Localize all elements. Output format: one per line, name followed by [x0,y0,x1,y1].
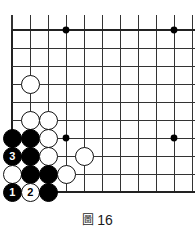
go-stone-white [39,111,58,130]
go-stone-black [3,129,22,148]
go-board[interactable]: 312 [0,0,195,205]
go-stone-black-move-3: 3 [3,147,22,166]
go-stone-black [39,183,58,202]
go-stone-move-number: 1 [9,187,15,198]
figure-caption-mark: 圖 [82,214,94,226]
go-stone-white [75,147,94,166]
figure-caption-number: 16 [97,213,113,227]
go-stone-black [39,165,58,184]
go-stone-white [39,129,58,148]
go-figure: 312 圖 16 [0,0,195,233]
go-stone-black [21,165,40,184]
go-stone-black-move-1: 1 [3,183,22,202]
figure-caption: 圖 16 [0,207,195,233]
go-stone-black [21,147,40,166]
go-stone-white-move-2: 2 [21,183,40,202]
go-stone-white [39,147,58,166]
go-stone-white [21,75,40,94]
go-stone-white [21,111,40,130]
go-stone-white [57,165,76,184]
go-stone-white [3,165,22,184]
go-stone-move-number: 2 [27,187,33,198]
go-stone-move-number: 3 [9,151,15,162]
go-stone-black [21,129,40,148]
